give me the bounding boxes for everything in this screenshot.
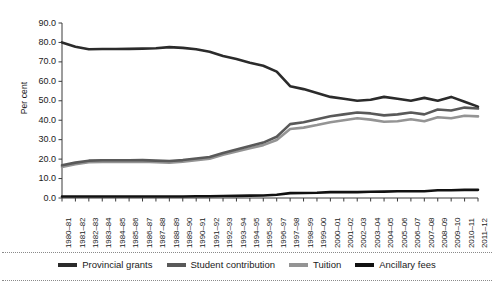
x-axis-tick-label: 2005–06: [401, 218, 409, 248]
legend-swatch-icon: [167, 263, 186, 267]
y-axis-tick-label: 30.0: [22, 135, 56, 144]
x-axis-tick-label: 1992–93: [226, 218, 234, 248]
x-axis-tick-label: 1993–94: [240, 218, 248, 248]
y-axis-tick-label: 90.0: [22, 19, 56, 28]
x-axis-tick-label: 1988–89: [173, 218, 181, 248]
plot-area: Per cent 0.010.020.030.040.050.060.070.0…: [0, 0, 494, 252]
legend-item[interactable]: Ancillary fees: [355, 260, 436, 270]
x-axis-tick-label: 1991–92: [213, 218, 221, 248]
x-axis-tick-label: 1999–00: [320, 218, 328, 248]
series-line-student-contribution: [62, 108, 478, 166]
x-axis-tick-label: 2011–12: [481, 218, 489, 248]
chart-legend: Provincial grantsStudent contributionTui…: [0, 255, 494, 275]
series-line-ancillary-fees: [62, 190, 478, 197]
x-axis-tick-label: 1998–99: [307, 218, 315, 248]
x-axis-tick-label: 1989–90: [186, 218, 194, 248]
x-axis-tick-label: 1981–82: [79, 218, 87, 248]
legend-label: Tuition: [313, 260, 341, 270]
x-axis-tick-labels: 1980–811981–821982–831983–841984–851985–…: [0, 200, 494, 252]
x-axis-tick-label: 2007–08: [428, 218, 436, 248]
x-axis-tick-label: 1994–95: [253, 218, 261, 248]
legend-label: Ancillary fees: [379, 260, 436, 270]
x-axis-tick-label: 1987–88: [159, 218, 167, 248]
x-axis-tick-label: 1986–87: [146, 218, 154, 248]
x-axis-tick-label: 2003–04: [374, 218, 382, 248]
y-axis-tick-label: 80.0: [22, 38, 56, 47]
y-axis-tick-label: 10.0: [22, 174, 56, 183]
x-axis-tick-label: 1980–81: [65, 218, 73, 248]
series-line-provincial-grants: [62, 42, 478, 106]
legend-swatch-icon: [289, 263, 308, 267]
legend-label: Provincial grants: [82, 260, 152, 270]
x-axis-tick-label: 2000–01: [334, 218, 342, 248]
x-axis-tick-label: 2009–10: [454, 218, 462, 248]
x-axis-tick-label: 2006–07: [414, 218, 422, 248]
x-axis-tick-label: 1982–83: [92, 218, 100, 248]
y-axis-tick-label: 40.0: [22, 116, 56, 125]
x-axis-tick-label: 2004–05: [387, 218, 395, 248]
x-axis-tick-label: 1996–97: [280, 218, 288, 248]
x-axis-tick-label: 1997–98: [293, 218, 301, 248]
x-axis-tick-label: 1995–96: [266, 218, 274, 248]
x-axis-tick-label: 1983–84: [105, 218, 113, 248]
legend-item[interactable]: Provincial grants: [58, 260, 152, 270]
line-chart: Per cent 0.010.020.030.040.050.060.070.0…: [0, 0, 494, 291]
x-axis-tick-label: 2002–03: [360, 218, 368, 248]
x-axis-tick-label: 2008–09: [441, 218, 449, 248]
x-axis-tick-label: 2010–11: [468, 218, 476, 248]
legend-swatch-icon: [58, 263, 77, 267]
x-axis-tick-label: 1984–85: [119, 218, 127, 248]
legend-swatch-icon: [355, 263, 374, 267]
y-axis-tick-label: 50.0: [22, 96, 56, 105]
y-axis-tick-label: 20.0: [22, 155, 56, 164]
x-axis-tick-label: 1985–86: [132, 218, 140, 248]
divider-top: [2, 252, 492, 253]
legend-label: Student contribution: [191, 260, 276, 270]
legend-item[interactable]: Tuition: [289, 260, 341, 270]
divider-bottom: [2, 280, 492, 281]
y-axis-tick-label: 70.0: [22, 57, 56, 66]
x-axis-tick-label: 1990–91: [199, 218, 207, 248]
x-axis-tick-label: 2001–02: [347, 218, 355, 248]
legend-item[interactable]: Student contribution: [167, 260, 276, 270]
y-axis-tick-label: 60.0: [22, 77, 56, 86]
